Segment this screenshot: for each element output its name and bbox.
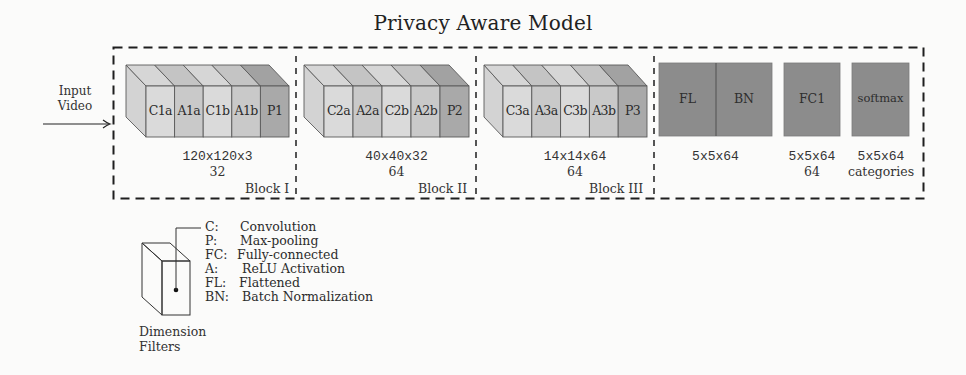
block-2-label: Block II — [418, 181, 467, 196]
slice-label: P3 — [618, 103, 647, 118]
slice-label: C3a — [503, 103, 532, 118]
block-2-dims: 40x40x32 64 — [324, 149, 469, 179]
slice-label: C1b — [203, 103, 232, 118]
slice-label: A2a — [353, 103, 382, 118]
legend-desc: Convolution — [240, 220, 316, 234]
slice-label: A3b — [589, 103, 618, 118]
dense-fc1-dimension: 5x5x64 — [776, 149, 848, 164]
block-3-dims: 14x14x64 64 — [503, 149, 647, 179]
slice-label: A1b — [232, 103, 261, 118]
slice-label: C2b — [382, 103, 411, 118]
slice-label: P2 — [440, 103, 469, 118]
block-1-cube — [126, 65, 289, 137]
dense-fc1-dims: 5x5x64 64 — [776, 149, 848, 179]
legend-caption-dimension: Dimension — [139, 324, 206, 339]
input-label-line2: Video — [45, 99, 105, 114]
block-1-filters: 32 — [146, 164, 289, 179]
dense-fl-bn-dims: 5x5x64 — [659, 149, 772, 164]
slice-label: C1a — [146, 103, 175, 118]
dense-softmax-dimension: 5x5x64 — [842, 149, 920, 164]
legend-key: A: — [205, 262, 218, 276]
dense-fc1-filters: 64 — [776, 164, 848, 179]
legend-desc: Max-pooling — [240, 234, 318, 248]
block-3-filters: 64 — [503, 164, 647, 179]
input-arrow-icon — [43, 120, 110, 128]
diagram-canvas — [0, 0, 966, 375]
legend-caption: Dimension Filters — [139, 324, 206, 354]
input-label-line1: Input — [45, 84, 105, 99]
legend-key: C: — [205, 220, 219, 234]
dense-fc1-label: FC1 — [784, 91, 840, 106]
dense-softmax-dims: 5x5x64 categories — [842, 149, 920, 179]
legend-key: FL: — [205, 276, 226, 290]
block-3-cube — [484, 65, 647, 137]
slice-label: A3a — [532, 103, 561, 118]
block-1-label: Block I — [245, 181, 289, 196]
legend-key: FC: — [205, 248, 227, 262]
dense-fl-bn-dimension: 5x5x64 — [659, 149, 772, 164]
dense-softmax-filters: categories — [842, 164, 920, 179]
legend-caption-filters: Filters — [139, 339, 206, 354]
diagram-title: Privacy Aware Model — [0, 11, 966, 35]
slice-label: P1 — [260, 103, 289, 118]
legend-cube-icon — [142, 228, 201, 315]
slice-label: C3b — [561, 103, 590, 118]
legend-desc: Batch Normalization — [242, 290, 373, 304]
legend-desc: Fully-connected — [237, 248, 338, 262]
block-3-label: Block III — [589, 181, 643, 196]
block-3-dimension: 14x14x64 — [503, 149, 647, 164]
slice-label: C2a — [324, 103, 353, 118]
block-1-dims: 120x120x3 32 — [146, 149, 289, 179]
block-2-cube — [304, 65, 469, 137]
dense-bn-label: BN — [716, 91, 772, 106]
legend-desc: Flattened — [239, 276, 300, 290]
input-label: Input Video — [45, 84, 105, 114]
dense-softmax-label: softmax — [852, 91, 909, 105]
legend-desc: ReLU Activation — [242, 262, 345, 276]
block-2-filters: 64 — [324, 164, 469, 179]
dense-fl-label: FL — [659, 91, 716, 106]
block-1-dimension: 120x120x3 — [146, 149, 289, 164]
block-2-dimension: 40x40x32 — [324, 149, 469, 164]
slice-label: A2b — [411, 103, 440, 118]
legend-key: P: — [205, 234, 217, 248]
legend-key: BN: — [205, 290, 229, 304]
slice-label: A1a — [175, 103, 204, 118]
